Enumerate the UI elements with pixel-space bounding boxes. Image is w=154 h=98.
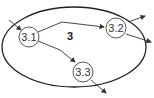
edge-3-2-out-upper — [128, 16, 145, 22]
diagram-canvas: 3 3.1 3.2 3.3 — [0, 0, 154, 98]
node-3-2[interactable]: 3.2 — [106, 18, 126, 38]
edge-3-1-to-3-3 — [38, 41, 75, 62]
node-3-1-label: 3.1 — [21, 31, 36, 43]
node-3-1[interactable]: 3.1 — [19, 27, 39, 47]
node-3-3-label: 3.3 — [75, 66, 90, 78]
edge-3-2-out-lower — [126, 34, 151, 42]
process-3-label: 3 — [67, 30, 73, 42]
node-3-3[interactable]: 3.3 — [73, 62, 93, 82]
edge-3-3-out — [91, 80, 106, 93]
node-3-2-label: 3.2 — [108, 22, 123, 34]
